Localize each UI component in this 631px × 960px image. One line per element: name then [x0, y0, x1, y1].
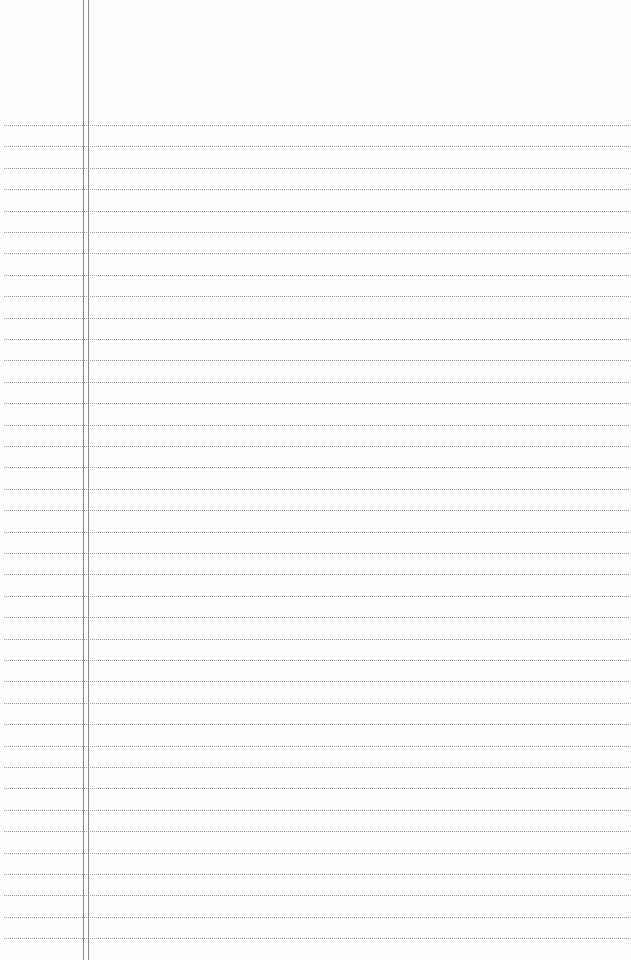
ruled-line	[4, 510, 629, 511]
margin-line-right	[88, 0, 89, 960]
ruled-line	[4, 831, 629, 832]
margin-line-left	[83, 0, 84, 960]
ruled-line	[4, 211, 629, 212]
ruled-line	[4, 596, 629, 597]
ruled-line	[4, 639, 629, 640]
ruled-line	[4, 382, 629, 383]
ruled-line	[4, 917, 629, 918]
ruled-line	[4, 553, 629, 554]
ruled-line	[4, 318, 629, 319]
ruled-line	[4, 895, 629, 896]
ruled-line	[4, 767, 629, 768]
ruled-line	[4, 660, 629, 661]
ruled-line	[4, 746, 629, 747]
ruled-line	[4, 189, 629, 190]
ruled-line	[4, 168, 629, 169]
ruled-line	[4, 146, 629, 147]
ruled-line	[4, 253, 629, 254]
ruled-line	[4, 339, 629, 340]
ruled-line	[4, 703, 629, 704]
ruled-line	[4, 617, 629, 618]
ruled-line	[4, 874, 629, 875]
ruled-line	[4, 532, 629, 533]
ruled-line	[4, 467, 629, 468]
ruled-line	[4, 360, 629, 361]
ruled-line	[4, 446, 629, 447]
ruled-line	[4, 232, 629, 233]
ruled-line	[4, 681, 629, 682]
ruled-line	[4, 425, 629, 426]
ruled-line	[4, 574, 629, 575]
ruled-line	[4, 724, 629, 725]
ruled-line	[4, 296, 629, 297]
ruled-line	[4, 403, 629, 404]
ruled-line	[4, 810, 629, 811]
ruled-line	[4, 788, 629, 789]
ruled-line	[4, 125, 629, 126]
ruled-line	[4, 489, 629, 490]
ruled-line	[4, 938, 629, 939]
ruled-line	[4, 853, 629, 854]
ruled-line	[4, 275, 629, 276]
notepad-page	[0, 0, 631, 960]
